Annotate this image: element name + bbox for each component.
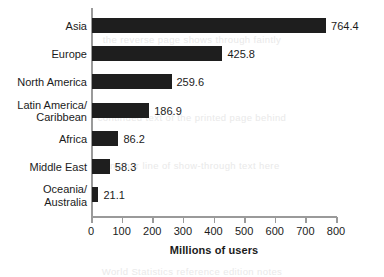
x-axis-tick-label: 0 — [88, 225, 94, 237]
x-axis-tick-label: 500 — [235, 225, 253, 237]
x-axis-tick-label: 600 — [266, 225, 284, 237]
x-axis-tick — [152, 217, 154, 223]
plot-area: 0100200300400500600700800Asia764.4Europe… — [0, 0, 384, 277]
bar-value-label: 425.8 — [227, 48, 255, 60]
category-label: Africa — [59, 133, 87, 146]
bar-value-label: 186.9 — [154, 105, 182, 117]
x-axis-tick — [122, 217, 124, 223]
bar — [92, 46, 222, 61]
category-label: North America — [17, 76, 87, 89]
bar — [92, 187, 98, 202]
x-axis-tick — [336, 217, 338, 223]
category-label: Oceania/ Australia — [43, 183, 87, 208]
bar — [92, 131, 118, 146]
x-axis-tick — [244, 217, 246, 223]
x-axis-tick-label: 800 — [327, 225, 345, 237]
bar — [92, 103, 149, 118]
bar-row: Latin America/ Caribbean186.9 — [0, 103, 384, 118]
x-axis-tick-label: 200 — [143, 225, 161, 237]
x-axis-tick-label: 700 — [296, 225, 314, 237]
category-label: Middle East — [30, 161, 87, 174]
x-axis-tick — [91, 217, 93, 223]
bar — [92, 18, 326, 33]
x-axis-tick — [214, 217, 216, 223]
bar-row: Middle East58.3 — [0, 159, 384, 174]
category-label: Europe — [52, 48, 87, 61]
bar-chart-figure: the reverse page shows through faintly c… — [0, 0, 384, 277]
bar-value-label: 764.4 — [331, 20, 359, 32]
bar — [92, 159, 110, 174]
bar-row: Africa86.2 — [0, 131, 384, 146]
bar — [92, 74, 172, 89]
bar-value-label: 259.6 — [177, 76, 205, 88]
bar-row: Oceania/ Australia21.1 — [0, 187, 384, 202]
bar-value-label: 86.2 — [123, 133, 144, 145]
x-axis-tick — [275, 217, 277, 223]
x-axis-tick — [183, 217, 185, 223]
bar-value-label: 58.3 — [115, 161, 136, 173]
category-label: Asia — [66, 20, 87, 33]
category-label: Latin America/ Caribbean — [17, 99, 87, 124]
x-axis-tick-label: 100 — [112, 225, 130, 237]
x-axis-tick-label: 400 — [204, 225, 222, 237]
x-axis-tick — [305, 217, 307, 223]
bar-row: Asia764.4 — [0, 18, 384, 33]
bar-value-label: 21.1 — [103, 189, 124, 201]
bar-row: Europe425.8 — [0, 46, 384, 61]
x-axis-tick-label: 300 — [174, 225, 192, 237]
bar-row: North America259.6 — [0, 74, 384, 89]
